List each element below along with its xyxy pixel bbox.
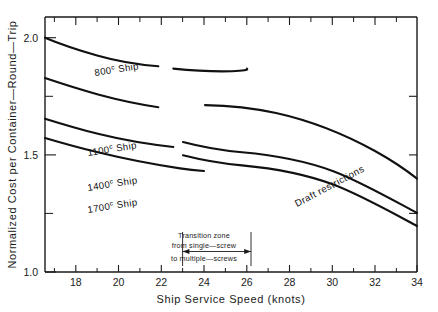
x-tick-label: 22: [155, 276, 167, 288]
x-tick-label: 32: [369, 276, 381, 288]
x-tick-label: 34: [411, 276, 423, 288]
x-tick-label: 24: [198, 276, 210, 288]
x-tick-label: 30: [326, 276, 338, 288]
x-tick-label: 20: [113, 276, 125, 288]
x-tick-label: 28: [284, 276, 296, 288]
y-tick-label: 1.0: [23, 266, 38, 278]
x-tick-label: 26: [241, 276, 253, 288]
series-label-1400c: 1400c Ship: [86, 174, 138, 193]
chart-figure: 18 20 22 24 26 28 30 32 34 1.0 1.5 2.0 S…: [0, 0, 438, 312]
y-axis-ticks: [45, 38, 56, 272]
transition-zone-arrow-right-head: [244, 249, 251, 254]
y-tick-label: 2.0: [23, 32, 38, 44]
x-tick-label: 18: [70, 276, 82, 288]
series-label-1700c: 1700c Ship: [86, 196, 138, 215]
series-1100c-single-screw-segment: [45, 78, 158, 107]
y-axis-title: Normalized Cost per Container—Round—Trip: [6, 21, 18, 269]
x-tick-labels: 18 20 22 24 26 28 30 32 34: [70, 276, 423, 288]
y-tick-labels: 1.0 1.5 2.0: [23, 32, 38, 278]
y-tick-label: 1.5: [23, 149, 38, 161]
series-800c-multiple-screw-segment: [173, 69, 247, 72]
series-1700c-multiple-screw-segment: [183, 155, 417, 226]
series-800c-ship: [45, 38, 247, 72]
series-1100c-multiple-screw-segment: [205, 105, 417, 179]
series-label-800c: 800c Ship: [93, 60, 139, 78]
x-axis-major-ticks: [76, 265, 417, 272]
x-axis-ticks-top: [54, 17, 396, 25]
transition-zone-line3: to multiple—screws: [171, 254, 237, 263]
transition-zone-line1: Transition zone: [178, 231, 230, 240]
annotation-transition-zone: Transition zone from single—screw to mul…: [171, 231, 251, 266]
series-800c-single-screw-segment: [45, 38, 158, 67]
transition-zone-line2: from single—screw: [172, 241, 237, 250]
x-axis-title: Ship Service Speed (knots): [157, 293, 306, 305]
cost-vs-speed-line-chart: 18 20 22 24 26 28 30 32 34 1.0 1.5 2.0 S…: [0, 0, 438, 312]
y-axis-ticks-right: [409, 96, 417, 213]
